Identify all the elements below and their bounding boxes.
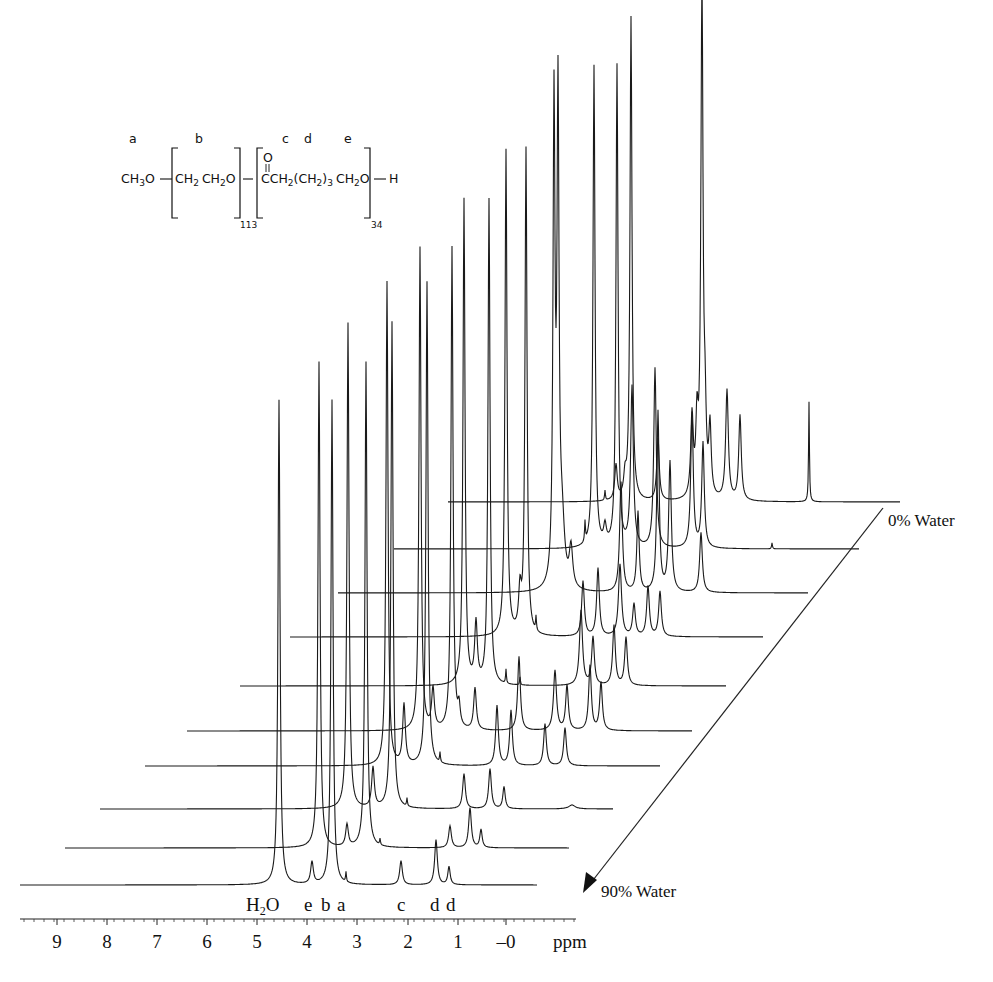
tick-label: 1	[453, 931, 463, 952]
spectrum-trace	[145, 281, 660, 766]
water-gradient-arrow	[583, 508, 883, 893]
assignment-b: b	[321, 894, 331, 915]
formula-repeat1: CH2CH2O	[175, 171, 236, 188]
repeat2-count: 34	[371, 220, 383, 230]
label-c: c	[282, 131, 289, 146]
tick-label: 7	[152, 931, 162, 952]
tick-label: 4	[302, 931, 312, 952]
formula-ch3o: CH3O	[121, 171, 155, 188]
arrowhead-icon	[583, 872, 597, 893]
x-axis: 987654321–0 ppm	[20, 919, 587, 952]
assignment-d1: d	[430, 894, 440, 915]
tick-label: 9	[52, 931, 62, 952]
peak-assignments: H2O e b a c d d	[246, 894, 456, 918]
assignment-a: a	[337, 894, 346, 915]
x-axis-unit: ppm	[553, 931, 587, 952]
spectrum-trace	[100, 321, 613, 809]
assignment-h2o: H2O	[246, 894, 279, 918]
label-a: a	[129, 131, 137, 146]
spectrum-trace	[448, 0, 900, 502]
label-b: b	[195, 131, 203, 146]
label-0-percent-water: 0% Water	[888, 511, 955, 530]
label-e: e	[344, 131, 352, 146]
spectrum-trace	[20, 400, 537, 885]
tick-label: 2	[403, 931, 413, 952]
spectrum-trace	[290, 146, 763, 637]
tick-label: 5	[252, 931, 262, 952]
nmr-waterfall-figure: a b c d e CH3O CH2CH2O 113 O CCH2(CH2)3C…	[0, 0, 993, 982]
label-d: d	[304, 131, 312, 146]
assignment-e: e	[304, 894, 312, 915]
label-90-percent-water: 90% Water	[601, 882, 677, 901]
tick-label: 8	[102, 931, 112, 952]
spectrum-trace	[65, 362, 569, 849]
tick-label: 3	[352, 931, 362, 952]
formula-repeat2: CCH2(CH2)3CH2O	[261, 171, 370, 188]
tick-label: –0	[496, 931, 516, 952]
spectra-stack	[20, 0, 900, 885]
tick-label: 6	[202, 931, 212, 952]
carbonyl-oxygen: O	[263, 150, 273, 165]
formula-terminal-h: H	[389, 171, 398, 186]
assignment-d2: d	[446, 894, 456, 915]
assignment-c: c	[397, 894, 405, 915]
spectrum-trace	[338, 55, 808, 593]
chemical-structure: a b c d e CH3O CH2CH2O 113 O CCH2(CH2)3C…	[121, 131, 398, 230]
repeat1-count: 113	[240, 220, 257, 230]
spectrum-trace	[240, 198, 726, 686]
